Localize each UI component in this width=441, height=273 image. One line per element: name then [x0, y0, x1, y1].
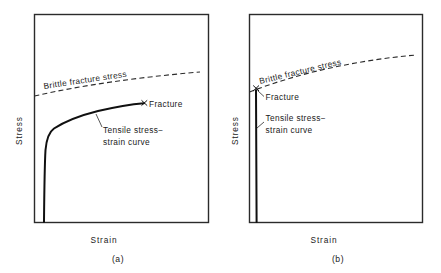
- x-axis-label: Strain: [310, 235, 337, 245]
- tensile-curve-label-line1: Tensile stress−: [266, 113, 326, 123]
- panel-b-plot: Brittle fracture stress Fracture Tensile…: [218, 0, 441, 273]
- tensile-curve-label-line1: Tensile stress−: [103, 125, 163, 135]
- tensile-curve-label-line2: strain curve: [103, 137, 150, 147]
- tensile-curve-label-line2: strain curve: [266, 125, 313, 135]
- x-axis-label: Strain: [90, 235, 117, 245]
- panel-a-plot: Brittle fracture stress Fracture Tensile…: [0, 0, 220, 273]
- fracture-leader-line: [258, 91, 265, 97]
- fracture-label: Fracture: [149, 99, 183, 109]
- tensile-stress-strain-curve: [44, 103, 144, 222]
- brittle-fracture-stress-label: Brittle fracture stress: [43, 69, 128, 91]
- panel-caption: (a): [112, 254, 124, 264]
- y-axis-label: Stress: [230, 116, 240, 145]
- tensile-curve-leader-line: [257, 122, 264, 128]
- tensile-curve-leader-line: [96, 114, 102, 127]
- stress-strain-figure: Brittle fracture stress Fracture Tensile…: [0, 0, 441, 273]
- plot-frame: [35, 15, 209, 223]
- panel-b: Brittle fracture stress Fracture Tensile…: [218, 0, 438, 273]
- tensile-stress-strain-curve: [256, 90, 257, 222]
- brittle-fracture-stress-label: Brittle fracture stress: [258, 57, 342, 86]
- panel-a: Brittle fracture stress Fracture Tensile…: [0, 0, 220, 273]
- fracture-label: Fracture: [266, 92, 300, 102]
- y-axis-label: Stress: [14, 116, 24, 145]
- panel-caption: (b): [332, 254, 344, 264]
